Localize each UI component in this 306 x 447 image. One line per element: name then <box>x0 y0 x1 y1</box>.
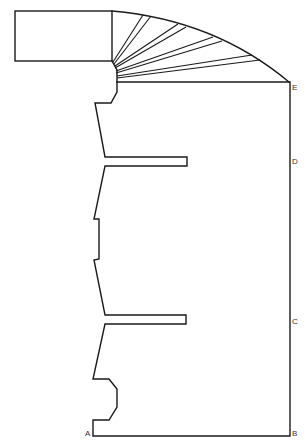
label-b: B <box>292 430 297 438</box>
top-block <box>15 11 112 61</box>
profile-diagram <box>0 0 306 447</box>
label-d: D <box>292 158 298 166</box>
label-a: A <box>85 430 90 438</box>
label-c: C <box>292 318 298 326</box>
block-chamfer <box>112 61 117 82</box>
fan-lines <box>113 15 260 78</box>
main-outline <box>93 82 290 436</box>
label-e: E <box>292 84 297 92</box>
